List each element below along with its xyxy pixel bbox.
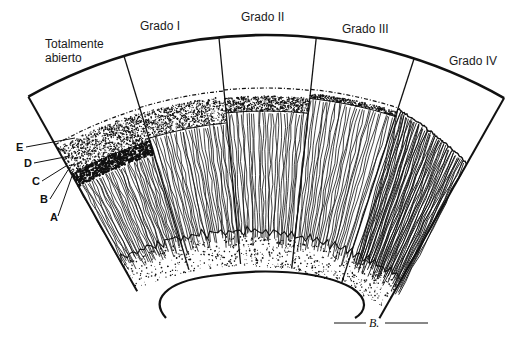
stipple-dot (129, 127, 130, 128)
stipple-boundary (226, 111, 308, 113)
stipple-dot (223, 106, 224, 107)
stipple-dot (212, 117, 214, 119)
stipple-dot (228, 110, 230, 112)
stipple-dot (93, 129, 95, 131)
pigment-dot (90, 177, 92, 179)
pigment-dot (107, 170, 109, 172)
stipple-dot (70, 145, 71, 146)
stipple-dot (212, 113, 213, 114)
base-stipple-dot (362, 292, 363, 293)
pigment-dot (149, 154, 152, 157)
base-stipple-dot (280, 254, 281, 255)
base-stipple-dot (394, 286, 396, 288)
base-stipple-dot (354, 275, 356, 277)
stipple-dot (201, 100, 202, 101)
stipple-dot (266, 106, 267, 107)
stipple-dot (128, 144, 130, 146)
base-stipple-dot (374, 295, 376, 297)
base-stipple-dot (383, 282, 385, 284)
stipple-dot (259, 103, 260, 104)
stipple-dot (144, 114, 145, 115)
stipple-dot (253, 106, 254, 107)
base-stipple-dot (276, 247, 277, 248)
stipple-dot (236, 97, 237, 98)
stipple-dot (85, 161, 87, 163)
stipple-dot (118, 132, 119, 133)
base-stipple-dot (141, 265, 143, 267)
base-stipple-dot (298, 266, 299, 267)
stipple-dot (205, 119, 207, 121)
base-stipple-dot (282, 266, 284, 268)
pigment-dot (104, 168, 105, 169)
stipple-dot (302, 104, 303, 105)
stipple-dot (97, 139, 98, 140)
stipple-dot (184, 124, 185, 125)
base-stipple-dot (161, 259, 162, 260)
stipple-dot (142, 128, 143, 129)
pigment-dot (126, 149, 128, 151)
stipple-dot (98, 131, 99, 132)
base-stipple-dot (337, 275, 338, 276)
base-stipple-dot (325, 251, 327, 253)
stipple-dot (137, 132, 139, 134)
base-stipple-dot (284, 249, 285, 250)
base-stipple-dot (165, 276, 166, 277)
ciliary-fiber (395, 161, 463, 294)
stipple-dot (392, 111, 393, 112)
base-stipple-dot (358, 279, 359, 280)
stipple-dot (162, 115, 164, 117)
stipple-dot (104, 147, 105, 148)
base-stipple-dot (353, 263, 354, 264)
stipple-dot (232, 105, 234, 107)
base-stipple-dot (299, 257, 301, 259)
base-stipple-dot (254, 242, 255, 243)
base-stipple-dot (208, 259, 209, 260)
stipple-dot (126, 123, 127, 124)
stipple-dot (287, 106, 289, 108)
stipple-dot (72, 146, 74, 148)
stipple-dot (201, 113, 203, 115)
stipple-dot (91, 142, 92, 143)
stipple-dot (218, 108, 219, 109)
stipple-dot (226, 98, 227, 99)
stipple-dot (108, 154, 109, 155)
stipple-dot (286, 99, 287, 100)
base-stipple-dot (160, 251, 161, 252)
stipple-dot (243, 102, 245, 104)
stipple-dot (184, 122, 185, 123)
base-stipple-dot (166, 247, 167, 248)
stipple-dot (224, 120, 225, 121)
stipple-dot (124, 118, 125, 119)
base-stipple-dot (255, 240, 257, 242)
stipple-dot (143, 128, 144, 129)
stipple-dot (306, 105, 308, 107)
stipple-dot (269, 102, 270, 103)
base-stipple-dot (310, 258, 312, 260)
stipple-dot (177, 125, 178, 126)
base-stipple-dot (186, 257, 187, 258)
stipple-dot (77, 151, 78, 152)
base-stipple-dot (296, 269, 297, 270)
stipple-dot (219, 122, 220, 123)
base-stipple-dot (144, 255, 146, 257)
stipple-dot (272, 105, 273, 106)
stipple-dot (207, 110, 208, 111)
base-stipple-dot (257, 250, 258, 251)
stipple-dot (184, 127, 185, 128)
stipple-dot (170, 125, 171, 126)
base-stipple-dot (208, 265, 209, 266)
stipple-dot (275, 103, 276, 104)
stipple-dot (119, 124, 120, 125)
stipple-dot (242, 103, 244, 105)
stipple-dot (132, 117, 133, 118)
stipple-dot (169, 127, 170, 128)
stipple-dot (287, 109, 288, 110)
stipple-dot (133, 121, 135, 123)
stipple-dot (171, 106, 173, 108)
stipple-dot (80, 167, 81, 168)
base-stipple-dot (139, 268, 140, 269)
stipple-dot (246, 100, 247, 101)
base-stipple-dot (165, 250, 167, 252)
base-stipple-dot (286, 246, 287, 247)
stipple-dot (154, 112, 155, 113)
